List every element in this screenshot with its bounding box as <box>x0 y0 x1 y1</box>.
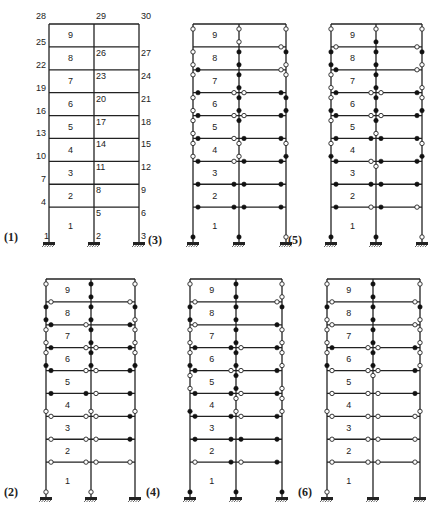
plastic-hinge-open-icon <box>232 113 236 117</box>
plastic-hinge-filled-icon <box>242 205 246 209</box>
storey-number: 8 <box>209 308 214 318</box>
plastic-hinge-open-icon <box>232 136 236 140</box>
support-hatch <box>325 500 327 502</box>
plastic-hinge-open-icon <box>369 159 373 163</box>
plastic-hinge-open-icon <box>280 282 284 286</box>
storey-number: 2 <box>350 191 355 201</box>
plastic-hinge-open-icon <box>376 437 380 441</box>
plastic-hinge-open-icon <box>279 45 283 49</box>
plastic-hinge-open-icon <box>237 40 241 44</box>
plastic-hinge-filled-icon <box>379 136 383 140</box>
plastic-hinge-filled-icon <box>280 305 284 309</box>
plastic-hinge-open-icon <box>128 300 132 304</box>
plastic-hinge-filled-icon <box>374 50 378 54</box>
support-hatch <box>369 500 371 502</box>
plastic-hinge-open-icon <box>188 328 192 332</box>
plastic-hinge-open-icon <box>239 368 243 372</box>
storey-number: 1 <box>68 221 73 231</box>
support-hatch <box>423 245 425 247</box>
plastic-hinge-filled-icon <box>196 90 200 94</box>
frame-panel-2: 123456789(2) <box>4 279 141 502</box>
plastic-hinge-filled-icon <box>275 368 279 372</box>
plastic-hinge-filled-icon <box>329 108 333 112</box>
storey-number: 9 <box>209 285 214 295</box>
plastic-hinge-open-icon <box>193 300 197 304</box>
plastic-hinge-filled-icon <box>284 50 288 54</box>
storey-number: 1 <box>209 476 214 486</box>
node-number: 18 <box>141 117 151 127</box>
plastic-hinge-filled-icon <box>418 305 422 309</box>
node-number: 16 <box>36 106 46 116</box>
plastic-hinge-open-icon <box>330 323 334 327</box>
support-hatch <box>324 245 326 247</box>
plastic-hinge-filled-icon <box>371 363 375 367</box>
plastic-hinge-open-icon <box>49 460 53 464</box>
plastic-hinge-open-icon <box>191 108 195 112</box>
plastic-hinge-filled-icon <box>374 108 378 112</box>
plastic-hinge-filled-icon <box>371 295 375 299</box>
frame-hinge-diagram: 123456789(1)1234567891011121314151617181… <box>0 0 437 515</box>
plastic-hinge-open-icon <box>374 27 378 31</box>
plastic-hinge-filled-icon <box>374 85 378 89</box>
plastic-hinge-open-icon <box>239 345 243 349</box>
plastic-hinge-filled-icon <box>196 113 200 117</box>
node-number: 13 <box>36 128 46 138</box>
support-hatch <box>191 245 193 247</box>
support-hatch <box>421 500 423 502</box>
plastic-hinge-filled-icon <box>242 136 246 140</box>
frame-panel-5: 123456789(5) <box>288 24 428 247</box>
storey-number: 5 <box>65 377 70 387</box>
support-hatch <box>92 245 94 247</box>
support-hatch <box>330 500 332 502</box>
plastic-hinge-open-icon <box>369 113 373 117</box>
plastic-hinge-open-icon <box>330 300 334 304</box>
plastic-hinge-filled-icon <box>229 460 233 464</box>
storey-number: 4 <box>209 400 214 410</box>
plastic-hinge-filled-icon <box>284 108 288 112</box>
support-hatch <box>242 245 244 247</box>
plastic-hinge-filled-icon <box>280 490 284 494</box>
support-hatch <box>420 245 422 247</box>
support-hatch <box>279 245 281 247</box>
panel-label: (4) <box>146 485 160 499</box>
plastic-hinge-open-icon <box>330 414 334 418</box>
plastic-hinge-filled-icon <box>329 235 333 239</box>
fixed-support-icon <box>325 242 337 245</box>
node-number: 5 <box>96 208 101 218</box>
plastic-hinge-filled-icon <box>237 118 241 122</box>
storey-number: 2 <box>212 191 217 201</box>
support-hatch <box>84 500 86 502</box>
support-hatch <box>374 245 376 247</box>
plastic-hinge-open-icon <box>133 340 137 344</box>
storey-number: 7 <box>346 331 351 341</box>
storey-number: 1 <box>65 476 70 486</box>
plastic-hinge-open-icon <box>329 95 333 99</box>
plastic-hinge-filled-icon <box>128 345 132 349</box>
node-number: 6 <box>141 208 146 218</box>
storey-number: 7 <box>350 76 355 86</box>
support-hatch <box>140 245 142 247</box>
storey-number: 5 <box>350 122 355 132</box>
storey-number: 8 <box>212 53 217 63</box>
storey-number: 6 <box>212 99 217 109</box>
support-hatch <box>332 245 334 247</box>
support-hatch <box>418 500 420 502</box>
plastic-hinge-open-icon <box>84 345 88 349</box>
plastic-hinge-open-icon <box>330 437 334 441</box>
plastic-hinge-filled-icon <box>279 136 283 140</box>
storey-number: 8 <box>346 308 351 318</box>
plastic-hinge-filled-icon <box>275 391 279 395</box>
support-hatch <box>94 500 96 502</box>
support-hatch <box>128 500 130 502</box>
plastic-hinge-filled-icon <box>193 437 197 441</box>
support-hatch <box>285 500 287 502</box>
support-hatch <box>278 500 280 502</box>
plastic-hinge-filled-icon <box>191 235 195 239</box>
plastic-hinge-open-icon <box>193 460 197 464</box>
node-number: 15 <box>141 139 151 149</box>
plastic-hinge-open-icon <box>191 131 195 135</box>
fixed-support-icon <box>276 497 288 500</box>
plastic-hinge-filled-icon <box>234 490 238 494</box>
plastic-hinge-filled-icon <box>229 414 233 418</box>
plastic-hinge-open-icon <box>84 368 88 372</box>
